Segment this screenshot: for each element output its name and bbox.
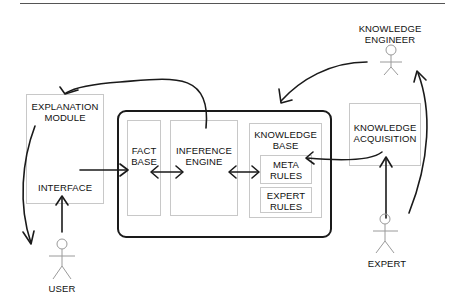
acquisition-to-metarules-arrow bbox=[307, 152, 382, 160]
inference-to-explanation-arrow bbox=[66, 79, 207, 128]
expert-figure bbox=[373, 214, 398, 253]
diagram-connectors bbox=[0, 0, 449, 308]
explanation-to-user-arrow bbox=[23, 126, 35, 243]
expert-to-engineer-arrow bbox=[409, 73, 427, 213]
user-figure bbox=[49, 239, 75, 279]
engineer-to-knowledgebase-arrow bbox=[281, 62, 367, 101]
knowledge-engineer-figure bbox=[380, 45, 402, 75]
